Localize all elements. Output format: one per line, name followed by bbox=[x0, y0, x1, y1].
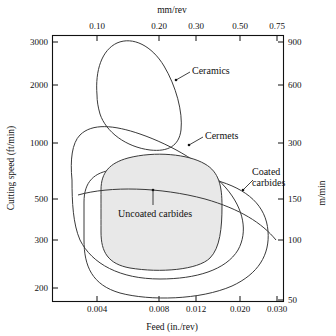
tool-material-operating-range-chart: 0.10 0.20 0.30 0.50 0.75 mm/rev 0.004 0.… bbox=[0, 0, 336, 336]
coated-carbides-leader-dot bbox=[242, 189, 245, 192]
bottom-tick-label-4: 0.030 bbox=[267, 304, 288, 314]
left-axis-title: Cutting speed (ft/min) bbox=[6, 126, 17, 210]
top-tick-label-4: 0.75 bbox=[269, 21, 285, 31]
top-tick-label-0: 0.10 bbox=[89, 21, 105, 31]
chart-container: 0.10 0.20 0.30 0.50 0.75 mm/rev 0.004 0.… bbox=[0, 0, 336, 336]
top-tick-label-2: 0.30 bbox=[188, 21, 204, 31]
right-tick-label-4: 100 bbox=[288, 235, 302, 245]
uncoated-carbides-leader-dot bbox=[152, 189, 155, 192]
top-axis-title: mm/rev bbox=[157, 5, 187, 15]
right-axis-title: m/min bbox=[317, 180, 327, 205]
bottom-tick-label-3: 0.020 bbox=[230, 304, 251, 314]
right-tick-label-0: 900 bbox=[288, 37, 302, 47]
ceramics-leader-dot bbox=[175, 79, 178, 82]
cermets-leader-dot bbox=[188, 144, 191, 147]
top-tick-label-1: 0.20 bbox=[151, 21, 167, 31]
ceramics-label: Ceramics bbox=[192, 65, 230, 76]
cermets-label: Cermets bbox=[205, 130, 238, 141]
right-tick-label-1: 600 bbox=[288, 80, 302, 90]
left-tick-label-5: 200 bbox=[35, 283, 49, 293]
left-tick-label-2: 1000 bbox=[30, 138, 49, 148]
left-tick-label-0: 3000 bbox=[30, 37, 49, 47]
bottom-tick-label-2: 0.012 bbox=[186, 304, 206, 314]
top-tick-label-3: 0.50 bbox=[232, 21, 248, 31]
right-tick-label-2: 300 bbox=[288, 138, 302, 148]
bottom-tick-label-0: 0.004 bbox=[87, 304, 108, 314]
right-tick-label-5: 50 bbox=[288, 295, 298, 305]
uncoated-carbides-label: Uncoated carbides bbox=[118, 208, 192, 219]
left-tick-label-3: 500 bbox=[35, 194, 49, 204]
bottom-axis-title: Feed (in./rev) bbox=[146, 322, 198, 333]
bottom-tick-label-1: 0.008 bbox=[149, 304, 170, 314]
left-tick-label-4: 300 bbox=[35, 235, 49, 245]
right-tick-label-3: 150 bbox=[288, 194, 302, 204]
coated-carbides-label-line1: Coated bbox=[252, 166, 280, 177]
coated-carbides-label-line2: carbides bbox=[252, 177, 285, 188]
left-tick-label-1: 2000 bbox=[30, 80, 49, 90]
